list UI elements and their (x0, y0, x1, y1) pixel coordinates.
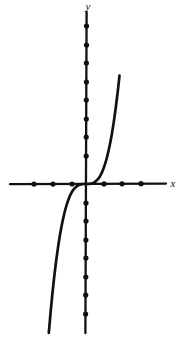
plot-background (0, 0, 188, 339)
x-axis-tick-dot (31, 182, 36, 187)
y-axis-line (85, 12, 86, 333)
x-axis-tick-dot (119, 181, 124, 186)
y-axis-tick-dot (83, 311, 88, 316)
y-axis-tick-dot (83, 292, 88, 297)
y-axis-tick-dot (83, 255, 88, 260)
y-axis-tick-dot (84, 23, 89, 28)
y-axis-tick-dot (84, 97, 89, 102)
graph-canvas: y x (0, 0, 188, 339)
y-axis-tick-dot (84, 116, 89, 121)
x-axis-tick-dot (50, 182, 55, 187)
y-axis-tick-dot (84, 134, 89, 139)
y-axis-tick-dot (83, 274, 88, 279)
cubic-function-figure: y x (0, 0, 188, 339)
y-axis-tick-dot (84, 60, 89, 65)
y-axis-tick-dot (83, 218, 88, 223)
y-axis-tick-dot (84, 79, 89, 84)
y-axis-tick-dot (84, 42, 89, 47)
y-axis-tick-dot (84, 153, 89, 158)
y-axis-tick-dot (83, 200, 88, 205)
y-axis-label: y (85, 0, 91, 12)
x-axis-tick-dot (69, 181, 74, 186)
x-axis-label: x (170, 177, 176, 189)
x-axis-tick-dot (138, 181, 143, 186)
y-axis-tick-dot (83, 237, 88, 242)
x-axis-tick-dot (101, 181, 106, 186)
